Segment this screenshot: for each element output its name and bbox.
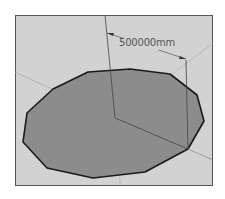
model-scene[interactable] xyxy=(0,0,225,199)
dimension-label[interactable]: 500000mm xyxy=(119,37,175,48)
red-axis-extension xyxy=(188,149,213,160)
circle-face[interactable] xyxy=(23,69,204,178)
dimension-arrow-start-icon xyxy=(107,33,114,36)
dimension-arrow-end-icon xyxy=(179,56,186,59)
